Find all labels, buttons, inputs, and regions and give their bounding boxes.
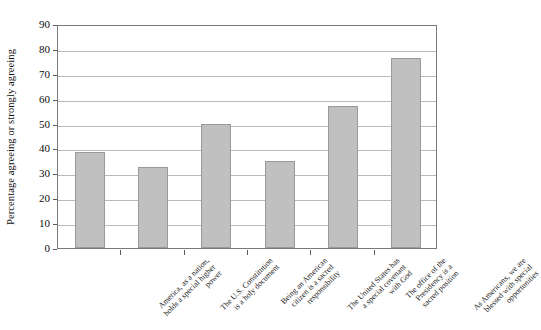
y-tick-label: 30 xyxy=(22,167,50,179)
gridline xyxy=(58,76,436,77)
y-tick-label: 90 xyxy=(22,18,50,30)
x-axis-label: As Americans, we areblessed with special… xyxy=(472,256,541,325)
bar xyxy=(328,106,358,248)
x-axis-label: The office of thePresidency is asacred p… xyxy=(404,256,461,313)
y-tick-label: 80 xyxy=(22,43,50,55)
y-tick-mark xyxy=(53,249,57,250)
bar xyxy=(391,58,421,248)
gridline xyxy=(58,51,436,52)
gridline xyxy=(58,126,436,127)
x-axis-label: The United States hasa special covenantw… xyxy=(345,256,414,325)
gridline xyxy=(58,200,436,201)
x-tick-mark xyxy=(247,250,248,255)
bar xyxy=(138,167,168,248)
bar xyxy=(265,161,295,248)
bar xyxy=(201,124,231,248)
x-tick-mark xyxy=(310,250,311,255)
gridline xyxy=(58,101,436,102)
y-tick-label: 70 xyxy=(22,68,50,80)
gridline xyxy=(58,175,436,176)
y-tick-label: 60 xyxy=(22,93,50,105)
y-axis-title-text: Percentage agreeing or strongly agreeing xyxy=(5,49,16,225)
plot-area xyxy=(57,25,437,249)
y-axis-title: Percentage agreeing or strongly agreeing xyxy=(2,25,18,249)
x-tick-mark xyxy=(120,250,121,255)
y-tick-label: 10 xyxy=(22,217,50,229)
x-axis-label-line: The U.S. Constitution xyxy=(219,256,275,312)
y-tick-label: 20 xyxy=(22,192,50,204)
x-tick-mark xyxy=(184,250,185,255)
x-axis-label: America, as a nation,holds a special hig… xyxy=(155,256,224,325)
bar xyxy=(75,152,105,248)
y-tick-label: 40 xyxy=(22,142,50,154)
x-axis-label: The U.S. Constitutionis a holy document xyxy=(219,256,282,319)
y-tick-label: 0 xyxy=(22,242,50,254)
gridline xyxy=(58,225,436,226)
y-tick-label: 50 xyxy=(22,118,50,130)
x-tick-mark xyxy=(374,250,375,255)
x-axis-label: Being an Americancitizen is a sacredresp… xyxy=(279,256,342,319)
gridline xyxy=(58,150,436,151)
